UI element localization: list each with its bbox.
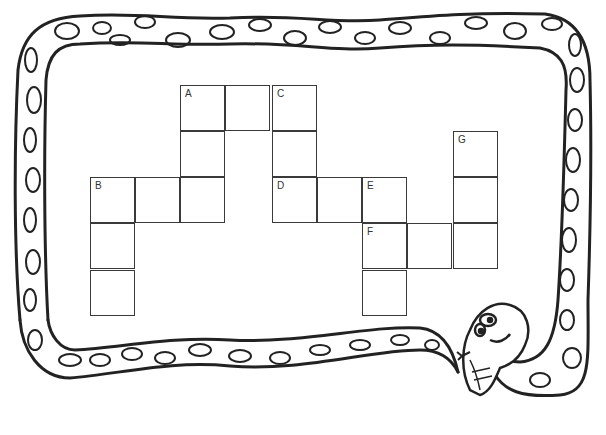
clue-label: G	[458, 134, 466, 145]
clue-label: F	[367, 226, 373, 237]
crossword-cell-d[interactable]: D	[272, 177, 317, 223]
crossword-cell[interactable]	[453, 177, 498, 223]
crossword-cell-c[interactable]: C	[272, 85, 317, 131]
crossword-cell-b[interactable]: B	[90, 177, 135, 223]
crossword-cell[interactable]	[362, 270, 407, 316]
crossword-cell[interactable]	[317, 177, 362, 223]
crossword-cell[interactable]	[272, 131, 317, 177]
clue-label: E	[367, 180, 374, 191]
crossword-cell-e[interactable]: E	[362, 177, 407, 223]
crossword-cell-a[interactable]: A	[180, 85, 225, 131]
crossword-cell[interactable]	[453, 223, 498, 269]
clue-label: D	[277, 180, 284, 191]
crossword-cell[interactable]	[407, 223, 452, 269]
crossword-cell-f[interactable]: F	[362, 223, 407, 269]
crossword-cell[interactable]	[135, 177, 180, 223]
crossword-cell-g[interactable]: G	[453, 131, 498, 177]
crossword-cell[interactable]	[90, 223, 135, 269]
crossword-cell[interactable]	[180, 131, 225, 177]
crossword-grid: ACGBDEF	[0, 0, 606, 435]
clue-label: B	[95, 180, 102, 191]
crossword-cell[interactable]	[225, 85, 270, 131]
clue-label: A	[185, 88, 192, 99]
crossword-cell[interactable]	[90, 270, 135, 316]
clue-label: C	[277, 88, 284, 99]
crossword-cell[interactable]	[180, 177, 225, 223]
